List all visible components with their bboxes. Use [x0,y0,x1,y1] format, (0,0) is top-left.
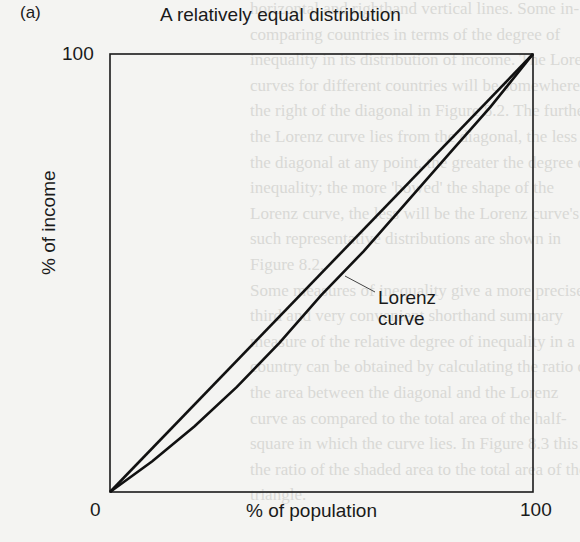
y-axis-label: % of income [38,170,60,275]
annotation-line-2: curve [378,308,436,329]
annotation-leader-line [345,276,375,292]
lorenz-curve-annotation: Lorenz curve [378,287,436,329]
x-tick-100: 100 [520,499,552,521]
y-tick-100: 100 [62,43,94,65]
annotation-line-1: Lorenz [378,287,436,308]
equality-diagonal-line [110,54,533,492]
x-axis-label: % of population [246,500,377,522]
x-tick-0: 0 [90,499,101,521]
